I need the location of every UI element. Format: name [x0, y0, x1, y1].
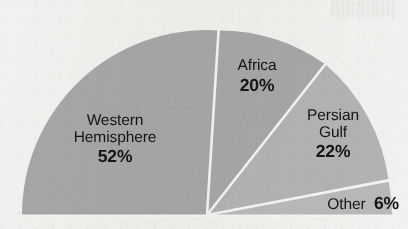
slice-value-western-hemisphere: 52%	[50, 147, 180, 166]
slice-value-persian-gulf: 22%	[290, 142, 376, 161]
slice-value-other: 6%	[374, 193, 399, 213]
slice-name-persian-gulf-line1: Persian	[290, 108, 376, 125]
chart-figure: Western Hemisphere 52% Africa 20% Persia…	[0, 0, 408, 229]
slice-name-western-hemisphere-line2: Hemisphere	[50, 130, 180, 147]
slice-label-africa: Africa 20%	[219, 58, 295, 95]
slice-label-western-hemisphere: Western Hemisphere 52%	[50, 113, 180, 166]
slice-label-persian-gulf: Persian Gulf 22%	[290, 108, 376, 161]
slice-name-other: Other	[327, 196, 365, 213]
slice-name-persian-gulf-line2: Gulf	[290, 125, 376, 142]
slice-name-africa: Africa	[219, 58, 295, 75]
slice-value-africa: 20%	[219, 76, 295, 95]
slice-name-western-hemisphere-line1: Western	[50, 113, 180, 130]
slice-label-other: Other 6%	[287, 194, 399, 214]
